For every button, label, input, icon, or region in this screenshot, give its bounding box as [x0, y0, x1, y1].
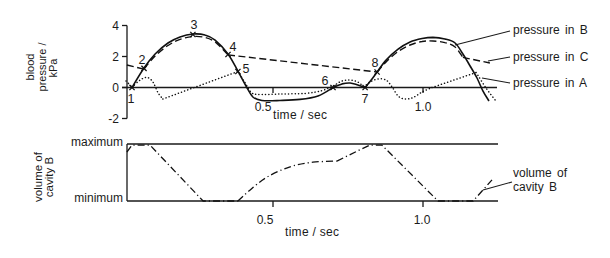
- point-label: 6: [322, 74, 329, 88]
- y-axis-label-line-3: kPa: [47, 58, 59, 78]
- y-tick-label-minimum: minimum: [74, 191, 123, 205]
- background: [0, 0, 610, 258]
- x-axis-label: time / sec: [273, 108, 327, 122]
- y-tick-label: -2: [108, 112, 119, 126]
- point-label: 3: [190, 18, 197, 32]
- point-label: 2: [139, 53, 146, 67]
- x-tick-label: 0.5: [255, 100, 272, 114]
- legend-label-pressure-a: pressure in A: [513, 76, 587, 90]
- x-tick-label: 1.0: [415, 100, 432, 114]
- point-label: 1: [128, 92, 135, 106]
- point-label: 7: [362, 92, 369, 106]
- figure: blood pressure / kPa time / sec pressure…: [0, 0, 610, 258]
- legend-label-pressure-c: pressure in C: [513, 50, 589, 64]
- x-tick-label: 0.5: [257, 213, 274, 227]
- y-tick-label: 4: [112, 19, 119, 33]
- point-label: 8: [372, 56, 379, 70]
- y-axis-label-line-2: cavity B: [43, 157, 55, 198]
- y-tick-label: 2: [112, 50, 119, 64]
- x-axis-label: time / sec: [285, 225, 339, 239]
- point-label: 4: [230, 40, 237, 54]
- figure-canvas: blood pressure / kPa time / sec pressure…: [0, 0, 610, 258]
- legend-label-pressure-b: pressure in B: [513, 23, 588, 37]
- y-tick-label: 0: [112, 81, 119, 95]
- series-label-line-1: volume of: [513, 166, 568, 180]
- x-tick-label: 1.0: [414, 213, 431, 227]
- series-label-line-2: cavity B: [513, 180, 557, 194]
- point-label: 5: [242, 62, 249, 76]
- y-axis-label-line-1: blood: [24, 54, 36, 81]
- y-tick-label-maximum: maximum: [71, 135, 123, 149]
